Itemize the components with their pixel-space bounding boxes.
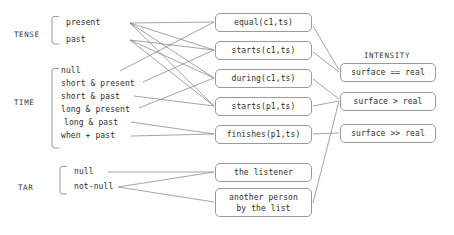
edge-null-time-to-equal-c1-ts bbox=[120, 22, 214, 71]
feature-item[interactable]: short & past bbox=[61, 92, 120, 101]
edge-equal-c1-ts-to-surface-equals-real bbox=[313, 26, 339, 70]
edge-starts-p1-ts-to-surface-greater-real bbox=[313, 101, 339, 106]
node-during-c1-ts[interactable]: during(c1,ts) bbox=[215, 69, 312, 88]
edge-past-to-starts-p1-ts bbox=[130, 40, 214, 106]
edge-past-to-starts-c1-ts bbox=[130, 40, 214, 50]
edge-when-plus-past-to-finishes-p1-ts bbox=[131, 134, 214, 136]
feature-item[interactable]: long & past bbox=[64, 118, 118, 127]
group-label-tar-group: TAR bbox=[18, 183, 33, 192]
group-label-time-group: TIME bbox=[14, 98, 34, 107]
feature-item[interactable]: when + past bbox=[61, 131, 115, 140]
edge-long-and-present-to-during-c1-ts bbox=[139, 78, 214, 108]
feature-item[interactable]: null bbox=[61, 66, 81, 75]
bracket-time-group bbox=[52, 69, 59, 149]
feature-item[interactable]: not-null bbox=[74, 182, 113, 191]
feature-item[interactable]: present bbox=[66, 18, 100, 27]
edge-present-to-equal-c1-ts bbox=[130, 22, 214, 23]
edge-another-person-by-the-list-to-surface-greater-real bbox=[313, 101, 339, 203]
edge-not-null-to-the-listener bbox=[118, 172, 214, 187]
node-the-listener[interactable]: the listener bbox=[215, 163, 312, 182]
node-equal-c1-ts[interactable]: equal(c1,ts) bbox=[215, 13, 312, 32]
bracket-tar-group bbox=[60, 167, 67, 195]
feature-mapping-diagram: TENSEpresentpastTIMEnullshort & presents… bbox=[0, 0, 454, 235]
edge-short-and-past-to-starts-p1-ts bbox=[134, 96, 214, 106]
node-surface-greater-real[interactable]: surface > real bbox=[340, 92, 436, 111]
feature-item[interactable]: short & present bbox=[61, 79, 135, 88]
node-surface-equals-real[interactable]: surface == real bbox=[340, 63, 436, 82]
edge-present-to-starts-p1-ts bbox=[130, 23, 214, 106]
node-another-person-by-the-list[interactable]: another person by the list bbox=[215, 188, 312, 217]
bracket-tense-group bbox=[52, 17, 59, 45]
node-surface-much-greater-real[interactable]: surface >> real bbox=[340, 124, 436, 143]
edge-long-and-past-to-finishes-p1-ts bbox=[131, 122, 214, 134]
intensity-column-heading: INTENSITY bbox=[364, 51, 410, 60]
edge-present-to-during-c1-ts bbox=[130, 23, 214, 78]
edge-finishes-p1-ts-to-surface-much-greater-real bbox=[313, 133, 339, 134]
node-finishes-p1-ts[interactable]: finishes(p1,ts) bbox=[215, 125, 312, 144]
edge-starts-c1-ts-to-surface-equals-real bbox=[313, 52, 339, 72]
feature-item[interactable]: long & present bbox=[61, 105, 130, 114]
edge-not-null-to-another-person-by-the-list bbox=[118, 187, 214, 202]
node-starts-c1-ts[interactable]: starts(c1,ts) bbox=[215, 41, 312, 60]
feature-item[interactable]: past bbox=[66, 35, 86, 44]
node-starts-p1-ts[interactable]: starts(p1,ts) bbox=[215, 97, 312, 116]
edge-during-c1-ts-to-surface-greater-real bbox=[313, 79, 339, 99]
feature-item[interactable]: null bbox=[74, 167, 94, 176]
group-label-tense-group: TENSE bbox=[14, 30, 40, 39]
